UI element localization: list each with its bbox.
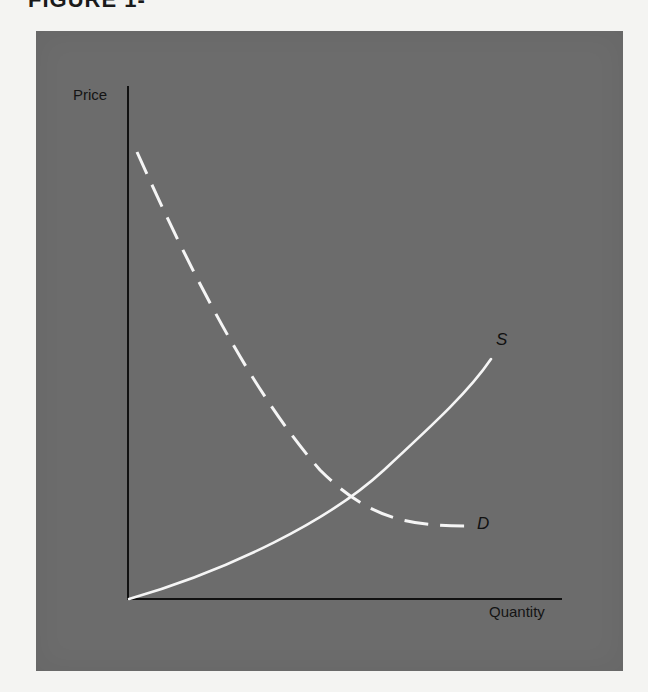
supply-curve-label: S [496,330,507,350]
demand-curve [137,152,468,526]
supply-demand-chart [0,0,648,692]
y-axis-label: Price [73,86,107,103]
x-axis-label: Quantity [489,603,545,620]
demand-curve-label: D [477,514,489,534]
supply-curve [129,359,491,599]
